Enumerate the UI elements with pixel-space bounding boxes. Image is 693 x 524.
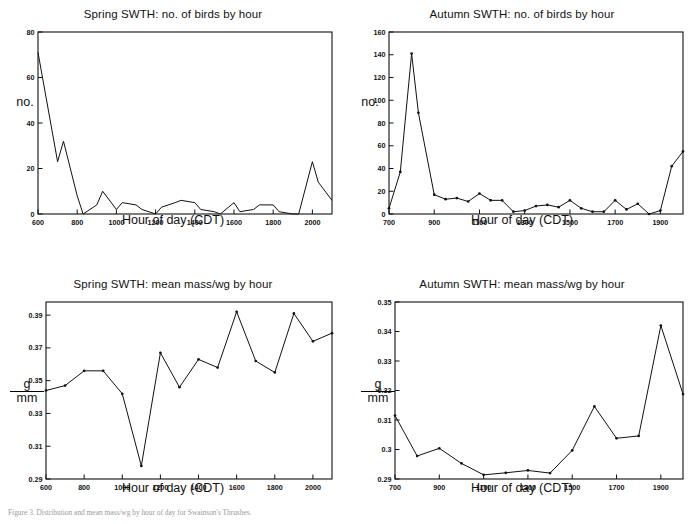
yaxis-label-denominator-autumn-mass: mm — [361, 392, 395, 405]
data-point — [527, 469, 530, 472]
data-point — [102, 369, 105, 372]
data-point — [615, 437, 618, 440]
panel-spring-count: Spring SWTH: no. of birds by hour 600800… — [8, 8, 338, 238]
data-point — [482, 474, 485, 477]
yaxis-tick-label: 140 — [374, 50, 386, 59]
figure-caption: Figure 3. Distribution and mean mass/wg … — [8, 508, 608, 517]
data-point — [467, 200, 470, 203]
panel-title-spring-count: Spring SWTH: no. of birds by hour — [8, 8, 338, 20]
data-point — [312, 340, 315, 343]
panel-spring-mass: Spring SWTH: mean mass/wg by hour 600800… — [8, 278, 338, 503]
yaxis-tick-label: 0.39 — [29, 311, 43, 320]
yaxis-label-autumn-count: no. — [355, 96, 385, 109]
data-point — [216, 366, 219, 369]
data-point — [254, 360, 257, 363]
data-point — [557, 206, 560, 209]
data-point — [417, 111, 420, 114]
data-series-line — [38, 52, 332, 214]
data-point — [478, 192, 481, 195]
data-point — [571, 449, 574, 452]
data-point — [235, 310, 238, 313]
yaxis-label-spring-mass: g mm — [10, 378, 44, 404]
data-series-line — [389, 54, 683, 214]
yaxis-tick-label: 0.31 — [378, 416, 392, 425]
xaxis-label-spring-count: Hour of day (CDT) — [8, 213, 338, 227]
yaxis-label-spring-count: no. — [10, 96, 40, 109]
data-point — [197, 358, 200, 361]
plot-spring-mass: 6008001000120014001600180020000.290.310.… — [8, 296, 338, 501]
data-point — [660, 324, 663, 327]
yaxis-tick-label: 80 — [378, 119, 386, 128]
data-series-line — [395, 326, 683, 475]
data-point — [416, 455, 419, 458]
data-point — [293, 312, 296, 315]
plot-autumn-mass: 700900110013001500170019000.290.30.310.3… — [355, 296, 689, 501]
figure-swth-distributions: Spring SWTH: no. of birds by hour 600800… — [0, 0, 693, 524]
yaxis-tick-label: 0.3 — [382, 445, 392, 454]
data-point — [456, 197, 459, 200]
data-point — [178, 386, 181, 389]
panel-autumn-count: Autumn SWTH: no. of birds by hour 700900… — [355, 8, 689, 238]
data-point — [438, 447, 441, 450]
data-point — [580, 207, 583, 210]
data-point — [273, 371, 276, 374]
yaxis-tick-label: 0.34 — [378, 327, 392, 336]
data-point — [569, 199, 572, 202]
plot-spring-count: 600800100012001400160018002000020406080 — [8, 26, 338, 236]
panel-title-autumn-mass: Autumn SWTH: mean mass/wg by hour — [355, 278, 689, 290]
yaxis-tick-label: 60 — [378, 141, 386, 150]
yaxis-label-numerator-autumn-mass: g — [361, 378, 395, 392]
data-series-line — [46, 312, 332, 466]
data-point — [636, 202, 639, 205]
data-point — [121, 392, 124, 395]
data-point — [159, 351, 162, 354]
data-point — [460, 462, 463, 465]
data-point — [637, 435, 640, 438]
yaxis-tick-label: 160 — [374, 28, 386, 37]
panel-title-spring-mass: Spring SWTH: mean mass/wg by hour — [8, 278, 338, 290]
yaxis-tick-label: 20 — [378, 187, 386, 196]
panel-title-autumn-count: Autumn SWTH: no. of birds by hour — [355, 8, 689, 20]
yaxis-tick-label: 0.33 — [29, 409, 43, 418]
data-point — [64, 384, 67, 387]
data-point — [388, 207, 391, 210]
data-point — [444, 198, 447, 201]
data-point — [83, 369, 86, 372]
data-point — [546, 204, 549, 207]
data-point — [331, 332, 334, 335]
plot-frame — [395, 302, 683, 479]
yaxis-label-denominator-spring-mass: mm — [10, 392, 44, 405]
yaxis-tick-label: 0.35 — [378, 298, 392, 307]
yaxis-tick-label: 40 — [378, 164, 386, 173]
xaxis-label-spring-mass: Hour of day (CDT) — [8, 481, 338, 495]
data-point — [659, 209, 662, 212]
plot-frame — [38, 32, 332, 214]
data-point — [433, 193, 436, 196]
data-point — [549, 472, 552, 475]
panel-autumn-mass: Autumn SWTH: mean mass/wg by hour 700900… — [355, 278, 689, 503]
yaxis-tick-label: 120 — [374, 73, 386, 82]
data-point — [682, 393, 685, 396]
yaxis-label-numerator-spring-mass: g — [10, 378, 44, 392]
data-point — [489, 199, 492, 202]
data-point — [682, 150, 685, 153]
yaxis-tick-label: 0.37 — [29, 343, 43, 352]
data-point — [535, 205, 538, 208]
data-point — [670, 165, 673, 168]
data-point — [394, 414, 397, 417]
data-point — [399, 171, 402, 174]
yaxis-tick-label: 0.33 — [378, 357, 392, 366]
xaxis-label-autumn-mass: Hour of day (CDT) — [355, 481, 689, 495]
data-point — [140, 465, 143, 468]
data-point — [410, 52, 413, 55]
data-point — [614, 199, 617, 202]
data-point — [504, 471, 507, 474]
data-point — [523, 209, 526, 212]
plot-autumn-count: 7009001100130015001700190002040608010012… — [355, 26, 689, 236]
yaxis-label-autumn-mass: g mm — [361, 378, 395, 404]
yaxis-tick-label: 60 — [27, 73, 35, 82]
yaxis-tick-label: 20 — [27, 164, 35, 173]
data-point — [593, 405, 596, 408]
xaxis-label-autumn-count: Hour of day (CDT) — [355, 213, 689, 227]
yaxis-tick-label: 0.31 — [29, 442, 43, 451]
